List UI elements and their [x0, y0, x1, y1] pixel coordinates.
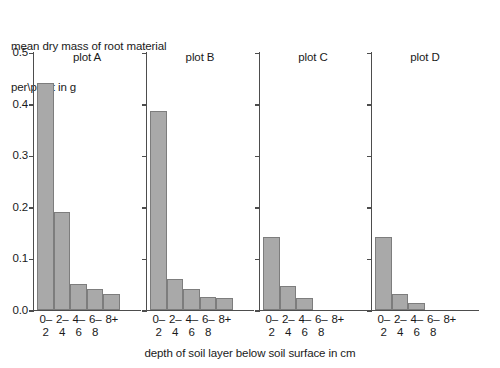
x-axis-tick-label-line-2: 8: [423, 326, 444, 339]
x-axis-tick-label-line-1: 8+: [443, 313, 456, 325]
y-axis-tick-label: 0.1: [4, 253, 28, 265]
x-axis-tick-label: 8+: [101, 313, 122, 326]
panel-x-labels: 0–22–44–66–88+: [34, 313, 142, 347]
x-axis-tick-label-line-1: 2–: [56, 313, 68, 325]
y-axis-tick-label: 0.2: [4, 202, 28, 214]
bar: [70, 284, 87, 310]
x-axis-tick-label-line-1: 6–: [315, 313, 327, 325]
bar: [167, 279, 184, 310]
panel-y-tick: [255, 104, 260, 105]
y-axis-tick-label: 0.5: [4, 47, 28, 59]
bar: [183, 289, 200, 310]
panel-y-tick: [367, 156, 372, 157]
x-axis-tick-label-line-1: 6–: [89, 313, 101, 325]
panel-y-tick: [142, 207, 147, 208]
panel-y-tick: [29, 259, 34, 260]
x-axis-tick-label: 8+: [327, 313, 348, 326]
panel-y-tick: [142, 104, 147, 105]
chart-panel: plot B0–22–44–66–88+: [146, 52, 254, 311]
panel-x-labels: 0–22–44–66–88+: [260, 313, 368, 347]
chart-panel: plot D0–22–44–66–88+: [371, 52, 479, 311]
bar: [150, 111, 167, 309]
root-mass-bar-chart: mean dry mass of root material per\plant…: [0, 0, 500, 368]
bar: [392, 294, 409, 309]
x-axis-tick-label-line-1: 2–: [394, 313, 406, 325]
panel-y-tick: [367, 259, 372, 260]
panel-baseline: [146, 310, 254, 311]
x-axis-tick-label-line-2: 8: [85, 326, 106, 339]
x-axis-tick-label-line-1: 0–: [40, 313, 52, 325]
panel-x-labels: 0–22–44–66–88+: [147, 313, 255, 347]
x-axis-tick-label: 8+: [439, 313, 460, 326]
panel-y-tick: [255, 259, 260, 260]
panel-y-tick: [142, 156, 147, 157]
bar: [37, 83, 54, 310]
bar: [263, 237, 280, 309]
y-axis-tick-label: 0.0: [4, 305, 28, 317]
panel-y-tick: [29, 156, 34, 157]
panel-bars: [260, 52, 368, 310]
x-axis-tick-label-line-1: 4–: [299, 313, 311, 325]
bar: [375, 237, 392, 309]
x-axis-tick-label-line-1: 0–: [378, 313, 390, 325]
x-axis-tick-label: 8+: [214, 313, 235, 326]
x-axis-tick-label-line-1: 8+: [105, 313, 118, 325]
x-axis-tick-label-line-1: 0–: [153, 313, 165, 325]
panel-x-labels: 0–22–44–66–88+: [372, 313, 480, 347]
panel-y-tick: [367, 207, 372, 208]
bar: [200, 297, 217, 310]
bar: [103, 294, 120, 309]
panel-baseline: [33, 310, 141, 311]
panel-y-tick: [255, 207, 260, 208]
panel-y-tick: [367, 104, 372, 105]
x-axis-tick-label-line-1: 4–: [186, 313, 198, 325]
bar: [54, 212, 71, 310]
panel-baseline: [259, 310, 367, 311]
chart-panel: plot A0–22–44–66–88+: [33, 52, 141, 311]
x-axis-title: depth of soil layer below soil surface i…: [0, 347, 500, 359]
y-axis-tick-label: 0.4: [4, 99, 28, 111]
panel-y-tick: [255, 156, 260, 157]
x-axis-tick-label-line-1: 6–: [202, 313, 214, 325]
x-axis-tick-label-line-1: 6–: [427, 313, 439, 325]
bar: [408, 303, 425, 309]
x-axis-tick-label-line-1: 4–: [73, 313, 85, 325]
x-axis-tick-label-line-1: 8+: [218, 313, 231, 325]
panel-y-tick: [142, 259, 147, 260]
panel-y-tick: [29, 104, 34, 105]
panel-bars: [34, 52, 142, 310]
panel-baseline: [371, 310, 479, 311]
y-axis-tick-label: 0.3: [4, 150, 28, 162]
chart-panel: plot C0–22–44–66–88+: [259, 52, 367, 311]
bar: [216, 298, 233, 310]
x-axis-tick-label-line-2: 8: [311, 326, 332, 339]
x-axis-tick-label-line-1: 2–: [169, 313, 181, 325]
panel-bars: [372, 52, 480, 310]
x-axis-tick-label-line-1: 8+: [331, 313, 344, 325]
panel-y-tick: [29, 207, 34, 208]
bar: [87, 289, 104, 310]
y-axis-tick-labels: 0.00.10.20.30.40.5: [4, 0, 28, 368]
bar: [280, 286, 297, 309]
bar: [296, 298, 313, 309]
x-axis-tick-label-line-2: 8: [198, 326, 219, 339]
x-axis-tick-label-line-1: 4–: [411, 313, 423, 325]
x-axis-tick-label-line-1: 2–: [282, 313, 294, 325]
x-axis-tick-label-line-1: 0–: [266, 313, 278, 325]
panel-bars: [147, 52, 255, 310]
